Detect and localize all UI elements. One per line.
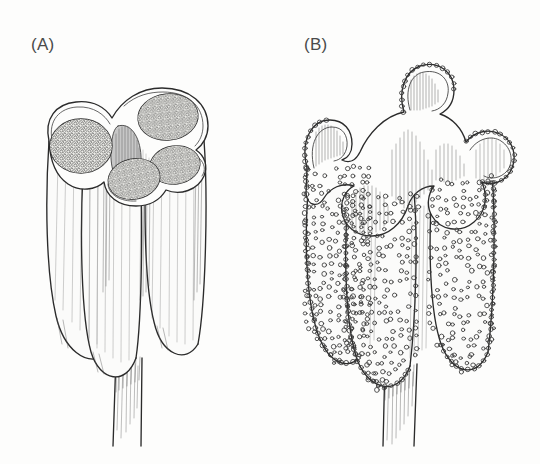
locule-a-1 [50, 119, 112, 173]
panel-a-label: (A) [31, 35, 55, 54]
illustration-plate: (A) [0, 0, 540, 464]
figure-root: (A) [0, 0, 540, 464]
panel-b-label: (B) [304, 35, 328, 54]
